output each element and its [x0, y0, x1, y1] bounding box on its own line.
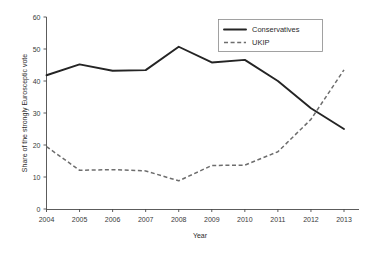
y-tick-label: 20: [33, 142, 41, 149]
series-line-conservatives: [47, 47, 345, 129]
legend-label-ukip: UKIP: [252, 38, 270, 47]
y-axis-tick-labels: 0102030405060: [33, 14, 41, 213]
y-tick-label: 30: [33, 110, 41, 117]
series-line-ukip: [47, 70, 345, 181]
chart-container: 0102030405060 20042005200620072008200920…: [0, 0, 369, 253]
y-tick-label: 0: [37, 206, 41, 213]
line-chart: 0102030405060 20042005200620072008200920…: [0, 0, 369, 253]
legend-label-conservatives: Conservatives: [252, 25, 300, 34]
x-tick-label: 2011: [270, 216, 285, 223]
y-tick-label: 10: [33, 174, 41, 181]
x-tick-label: 2004: [39, 216, 55, 223]
x-axis-tick-labels: 2004200520062007200820092010201120122013: [39, 216, 352, 223]
x-tick-label: 2005: [72, 216, 88, 223]
x-tick-label: 2007: [138, 216, 154, 223]
plot-area: [47, 47, 345, 181]
x-tick-label: 2009: [204, 216, 220, 223]
y-tick-label: 50: [33, 46, 41, 53]
y-tick-label: 60: [33, 14, 41, 21]
y-axis-title: Share of the strongly Eurosceptic vote: [21, 54, 29, 172]
x-axis-title: Year: [193, 232, 208, 239]
x-tick-label: 2012: [303, 216, 319, 223]
y-axis: 0102030405060: [33, 14, 47, 213]
x-tick-label: 2008: [171, 216, 187, 223]
y-tick-label: 40: [33, 78, 41, 85]
x-tick-label: 2010: [237, 216, 253, 223]
x-axis: 2004200520062007200820092010201120122013: [39, 209, 359, 223]
x-tick-label: 2006: [105, 216, 121, 223]
legend: Conservatives UKIP: [219, 20, 323, 52]
x-tick-label: 2013: [336, 216, 352, 223]
